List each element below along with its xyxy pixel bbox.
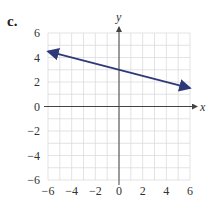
svg-text:0: 0 [34, 100, 40, 114]
svg-text:−2: −2 [89, 184, 102, 198]
svg-text:y: y [115, 10, 122, 24]
axes: xy [44, 10, 206, 185]
svg-text:4: 4 [34, 51, 40, 65]
svg-text:−6: −6 [27, 173, 40, 187]
svg-text:x: x [199, 100, 206, 114]
line-chart: xy −6−4−20246−6−4−20246 [0, 0, 213, 209]
svg-text:−2: −2 [27, 124, 40, 138]
svg-text:6: 6 [187, 184, 193, 198]
svg-text:4: 4 [163, 184, 169, 198]
svg-text:2: 2 [34, 75, 40, 89]
svg-text:−6: −6 [42, 184, 55, 198]
svg-text:−4: −4 [65, 184, 78, 198]
svg-text:6: 6 [34, 26, 40, 40]
svg-text:−4: −4 [27, 149, 40, 163]
svg-text:2: 2 [140, 184, 146, 198]
svg-text:0: 0 [116, 184, 122, 198]
